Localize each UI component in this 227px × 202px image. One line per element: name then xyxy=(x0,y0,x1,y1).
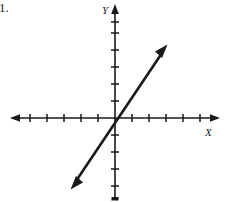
x-axis-left-arrowhead xyxy=(10,114,20,122)
x-axis-right-arrowhead xyxy=(210,114,220,122)
y-axis-top-arrowhead xyxy=(111,4,119,14)
coordinate-plane-graph: X Y xyxy=(0,0,227,202)
plotted-line-lower-arrowhead xyxy=(71,176,84,190)
plotted-line-upper-arrowhead xyxy=(155,45,168,59)
y-axis-label: Y xyxy=(102,4,110,16)
graph-page: 1. xyxy=(0,0,227,202)
x-axis-label: X xyxy=(204,126,213,138)
y-axis-bottom-cap xyxy=(112,197,119,201)
